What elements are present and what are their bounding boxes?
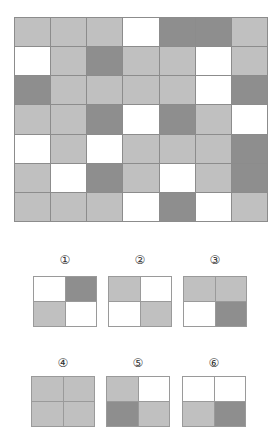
grid-cell	[160, 135, 195, 163]
option-1-label: ①	[55, 253, 75, 267]
grid-cell	[123, 164, 158, 192]
option-cell	[215, 402, 246, 426]
option-5-label: ⑤	[128, 356, 148, 370]
option-cell	[66, 277, 97, 301]
grid-cell	[51, 135, 86, 163]
grid-cell	[196, 76, 231, 104]
option-cell	[64, 377, 95, 401]
grid-cell	[123, 47, 158, 75]
option-6[interactable]	[182, 376, 246, 427]
grid-cell	[160, 47, 195, 75]
option-cell	[215, 377, 246, 401]
grid-cell	[196, 18, 231, 46]
option-cell	[183, 402, 214, 426]
grid-cell	[232, 18, 267, 46]
grid-cell	[123, 105, 158, 133]
grid-cell	[87, 164, 122, 192]
pattern-grid	[14, 17, 268, 222]
grid-cell	[232, 135, 267, 163]
option-cell	[109, 277, 140, 301]
grid-cell	[51, 76, 86, 104]
grid-cell	[160, 76, 195, 104]
grid-cell	[51, 164, 86, 192]
grid-cell	[51, 18, 86, 46]
grid-cell	[15, 164, 50, 192]
grid-cell	[51, 47, 86, 75]
option-2-label: ②	[130, 253, 150, 267]
option-5[interactable]	[106, 376, 170, 427]
option-cell	[139, 402, 170, 426]
grid-cell	[196, 105, 231, 133]
grid-cell	[51, 193, 86, 221]
grid-cell	[123, 135, 158, 163]
option-cell	[66, 302, 97, 326]
option-3-label: ③	[205, 253, 225, 267]
grid-cell	[15, 193, 50, 221]
grid-cell	[15, 18, 50, 46]
grid-cell	[123, 18, 158, 46]
option-cell	[109, 302, 140, 326]
grid-cell	[196, 47, 231, 75]
option-cell	[107, 402, 138, 426]
option-cell	[216, 302, 247, 326]
option-cell	[139, 377, 170, 401]
grid-cell	[232, 105, 267, 133]
grid-cell	[123, 193, 158, 221]
option-cell	[34, 277, 65, 301]
grid-cell	[160, 164, 195, 192]
option-cell	[107, 377, 138, 401]
option-cell	[184, 302, 215, 326]
grid-cell	[87, 135, 122, 163]
grid-cell	[87, 193, 122, 221]
option-4-label: ④	[53, 356, 73, 370]
grid-cell	[196, 135, 231, 163]
option-1[interactable]	[33, 276, 97, 327]
option-cell	[64, 402, 95, 426]
grid-cell	[232, 164, 267, 192]
grid-cell	[160, 193, 195, 221]
option-cell	[216, 277, 247, 301]
grid-cell	[87, 47, 122, 75]
grid-cell	[87, 105, 122, 133]
option-2[interactable]	[108, 276, 172, 327]
grid-cell	[160, 105, 195, 133]
grid-cell	[51, 105, 86, 133]
grid-cell	[15, 135, 50, 163]
option-cell	[183, 377, 214, 401]
option-4[interactable]	[31, 376, 95, 427]
grid-cell	[15, 47, 50, 75]
grid-cell	[87, 18, 122, 46]
grid-cell	[232, 47, 267, 75]
option-cell	[141, 277, 172, 301]
grid-cell	[15, 105, 50, 133]
grid-cell	[160, 18, 195, 46]
option-cell	[34, 302, 65, 326]
grid-cell	[232, 193, 267, 221]
option-cell	[32, 377, 63, 401]
grid-cell	[196, 193, 231, 221]
grid-cell	[123, 76, 158, 104]
grid-cell	[232, 76, 267, 104]
option-cell	[32, 402, 63, 426]
grid-cell	[15, 76, 50, 104]
option-6-label: ⑥	[204, 356, 224, 370]
grid-cell	[87, 76, 122, 104]
option-cell	[141, 302, 172, 326]
grid-cell	[196, 164, 231, 192]
option-cell	[184, 277, 215, 301]
option-3[interactable]	[183, 276, 247, 327]
